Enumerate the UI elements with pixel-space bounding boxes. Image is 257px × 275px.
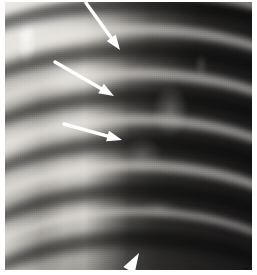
page-margin-top (0, 0, 257, 2)
radiograph-plate (5, 2, 252, 270)
page-margin-left (0, 0, 5, 275)
film-grain (5, 2, 252, 270)
page-margin-right (252, 0, 257, 275)
radiograph-figure (0, 0, 257, 275)
page-margin-bottom (0, 270, 257, 275)
